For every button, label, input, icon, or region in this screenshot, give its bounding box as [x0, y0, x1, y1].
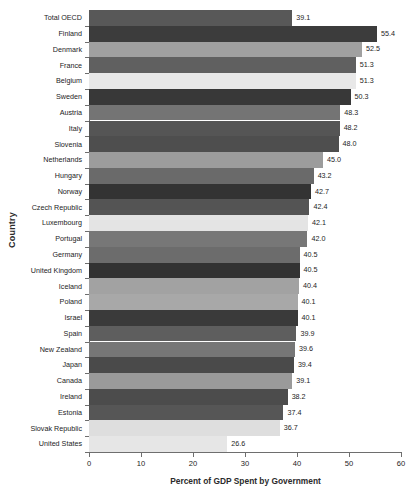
bar[interactable] [89, 420, 280, 436]
bar-value-label: 39.6 [297, 345, 314, 353]
bar-row[interactable]: 48.3 [89, 105, 401, 121]
bar-row[interactable]: 45.0 [89, 152, 401, 168]
bar-row[interactable]: 39.9 [89, 326, 401, 342]
bar-row[interactable]: 38.2 [89, 389, 401, 405]
bar[interactable] [89, 263, 300, 279]
bar-row[interactable]: 42.4 [89, 199, 401, 215]
x-axis-tick-label: 10 [137, 459, 145, 468]
bar[interactable] [89, 326, 296, 342]
y-axis-tick [85, 263, 89, 264]
bar-row[interactable]: 40.5 [89, 247, 401, 263]
bar[interactable] [89, 278, 299, 294]
bar[interactable] [89, 26, 377, 42]
y-axis-tick [85, 42, 89, 43]
y-axis-title: Country [2, 0, 22, 460]
bar-row[interactable]: 40.1 [89, 294, 401, 310]
bar[interactable] [89, 231, 307, 247]
bar[interactable] [89, 42, 362, 58]
bar[interactable] [89, 215, 308, 231]
bar[interactable] [89, 357, 294, 373]
y-axis-tick-label: Italy [20, 120, 86, 136]
bar[interactable] [89, 342, 295, 358]
bar-row[interactable]: 26.6 [89, 436, 401, 452]
bar-row[interactable]: 48.2 [89, 121, 401, 137]
bar-row[interactable]: 42.0 [89, 231, 401, 247]
bar-row[interactable]: 51.3 [89, 73, 401, 89]
bar[interactable] [89, 10, 292, 26]
x-axis-tick-label: 60 [397, 459, 405, 468]
bar-row[interactable]: 36.7 [89, 420, 401, 436]
y-axis-tick-label: Netherlands [20, 152, 86, 168]
y-axis-tick [85, 168, 89, 169]
bar[interactable] [89, 57, 356, 73]
bar-value-label: 40.5 [302, 251, 319, 259]
bar-value-label: 36.7 [282, 424, 299, 432]
y-axis-tick-label: Denmark [20, 42, 86, 58]
bar[interactable] [89, 152, 323, 168]
bar-value-label: 26.6 [229, 440, 246, 448]
bar-row[interactable]: 40.5 [89, 263, 401, 279]
y-axis-tick-label: Israel [20, 310, 86, 326]
bar-value-label: 40.5 [302, 266, 319, 274]
bar-value-label: 42.1 [310, 219, 327, 227]
bar-row[interactable]: 39.1 [89, 373, 401, 389]
bar[interactable] [89, 121, 340, 137]
bar-value-label: 50.3 [353, 93, 370, 101]
y-axis-tick-label: France [20, 57, 86, 73]
bar[interactable] [89, 373, 292, 389]
x-axis-tick [245, 453, 246, 457]
bar[interactable] [89, 294, 298, 310]
bar-value-label: 40.4 [301, 282, 318, 290]
bar-row[interactable]: 48.0 [89, 136, 401, 152]
x-axis-tick [141, 453, 142, 457]
bar[interactable] [89, 184, 311, 200]
bar-row[interactable]: 52.5 [89, 42, 401, 58]
bar-row[interactable]: 55.4 [89, 26, 401, 42]
bar[interactable] [89, 136, 339, 152]
y-axis-tick [85, 57, 89, 58]
bar-row[interactable]: 37.4 [89, 405, 401, 421]
y-axis-tick [85, 342, 89, 343]
bar-row[interactable]: 40.4 [89, 278, 401, 294]
bar-value-label: 39.1 [294, 14, 311, 22]
bar[interactable] [89, 199, 309, 215]
bar-value-label: 38.2 [290, 393, 307, 401]
x-axis-tick [89, 453, 90, 457]
bar-row[interactable]: 39.1 [89, 10, 401, 26]
bar-value-label: 42.7 [313, 188, 330, 196]
bar-row[interactable]: 51.3 [89, 57, 401, 73]
bar[interactable] [89, 247, 300, 263]
bar-value-label: 43.2 [316, 172, 333, 180]
bar[interactable] [89, 405, 283, 421]
bar[interactable] [89, 89, 351, 105]
bar-row[interactable]: 40.1 [89, 310, 401, 326]
y-axis-tick [85, 26, 89, 27]
bar-row[interactable]: 42.7 [89, 184, 401, 200]
x-axis-tick-label: 20 [189, 459, 197, 468]
bar[interactable] [89, 105, 340, 121]
bar[interactable] [89, 436, 227, 452]
bar[interactable] [89, 168, 314, 184]
x-axis-tick-label: 50 [345, 459, 353, 468]
bar[interactable] [89, 73, 356, 89]
bar[interactable] [89, 389, 288, 405]
y-axis-tick [85, 215, 89, 216]
x-axis-title: Percent of GDP Spent by Government [89, 476, 402, 486]
bar-row[interactable]: 43.2 [89, 168, 401, 184]
bar[interactable] [89, 310, 298, 326]
y-axis-tick-label: Canada [20, 373, 86, 389]
bar-value-label: 39.9 [298, 330, 315, 338]
y-axis-tick [85, 389, 89, 390]
y-axis-tick-labels: Total OECDFinlandDenmarkFranceBelgiumSwe… [20, 10, 86, 452]
x-axis-tick [349, 453, 350, 457]
bar-value-label: 45.0 [325, 156, 342, 164]
y-axis-tick-label: Hungary [20, 168, 86, 184]
bar-row[interactable]: 42.1 [89, 215, 401, 231]
bar-row[interactable]: 39.4 [89, 357, 401, 373]
bar-row[interactable]: 50.3 [89, 89, 401, 105]
bar-row[interactable]: 39.6 [89, 342, 401, 358]
y-axis-tick [85, 294, 89, 295]
bar-value-label: 48.2 [342, 124, 359, 132]
x-axis-tick-label: 0 [87, 459, 91, 468]
bar-value-label: 39.1 [294, 377, 311, 385]
